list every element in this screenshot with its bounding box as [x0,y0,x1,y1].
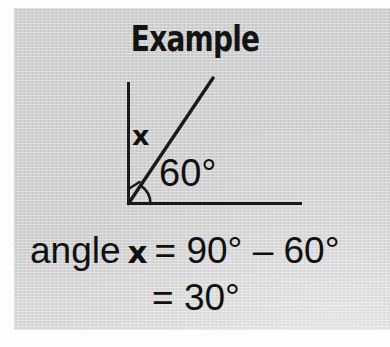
equation-line-2: = 30° [0,275,390,320]
known-angle-label: 60° [159,152,216,194]
equation-expression: = 90° – 60° [155,230,340,271]
equation-variable: x [128,234,148,270]
worksheet-screenshot: Example x 60° anglex= 90° – 60° = 30° [0,0,390,347]
content-layer: Example x 60° anglex= 90° – 60° = 30° [0,0,390,347]
angle-arc-60 [141,186,151,204]
unknown-angle-label: x [132,121,149,151]
solution-block: anglex= 90° – 60° = 30° [0,228,390,320]
equation-lead-text: angle [30,230,121,271]
equation-line-1: anglex= 90° – 60° [0,228,390,275]
